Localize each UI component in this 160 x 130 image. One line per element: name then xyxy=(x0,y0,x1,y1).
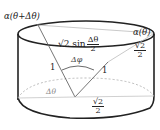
base-radius-left xyxy=(18,97,75,98)
bottom-back-arc xyxy=(18,78,154,98)
label-chord: √2 sinΔθ2 xyxy=(58,36,99,53)
base-radius-right xyxy=(75,96,154,97)
label-base-angle: Δθ xyxy=(46,88,56,96)
chord-frac-den: 2 xyxy=(87,45,100,53)
label-right-edge: 1 xyxy=(102,66,107,75)
label-top-right-point: α(θ) xyxy=(133,28,151,37)
bottom-front-arc xyxy=(18,96,154,118)
label-apex-angle: Δφ xyxy=(71,56,82,64)
label-radius: √22 xyxy=(92,98,104,115)
label-top-left-point: α(θ+Δθ) xyxy=(4,12,40,21)
apex-angle-arc xyxy=(62,66,94,70)
label-left-edge: 1 xyxy=(50,63,55,72)
label-height: √22 xyxy=(134,42,146,59)
chord-prefix: √2 sin xyxy=(58,39,86,49)
radius-den: 2 xyxy=(92,107,104,115)
right-slant-edge-upper xyxy=(108,34,153,62)
height-den: 2 xyxy=(134,51,146,59)
